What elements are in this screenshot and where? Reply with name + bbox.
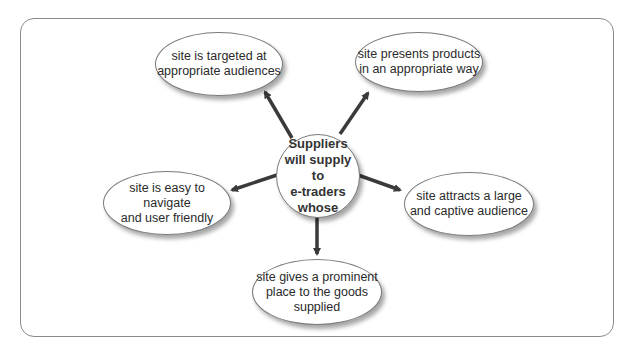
node-prominent-place: site gives a prominent place to the good… — [252, 259, 382, 325]
node-label: site attracts a large and captive audien… — [410, 189, 528, 219]
node-label: site is easy to navigate and user friend… — [104, 181, 230, 226]
node-label: site presents products in an appropriate… — [358, 47, 480, 77]
center-label: Suppliers will supply to e-traders whose — [277, 136, 359, 216]
arrow-right — [358, 175, 400, 190]
node-easy-navigate: site is easy to navigate and user friend… — [103, 171, 231, 235]
arrow-top-right — [340, 93, 368, 134]
node-targeted-audiences: site is targeted at appropriate audience… — [155, 32, 283, 96]
node-captive-audience: site attracts a large and captive audien… — [404, 172, 534, 236]
node-label: site gives a prominent place to the good… — [256, 270, 378, 315]
arrow-left — [232, 175, 277, 190]
node-presents-products: site presents products in an appropriate… — [355, 32, 483, 92]
node-label: site is targeted at appropriate audience… — [157, 49, 281, 79]
center-node: Suppliers will supply to e-traders whose — [276, 134, 360, 218]
arrow-top-left — [265, 92, 292, 138]
